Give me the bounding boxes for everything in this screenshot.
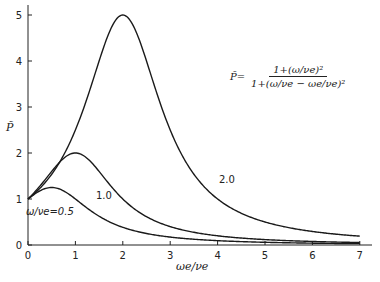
curve-2.0 xyxy=(28,15,360,236)
curve-label-1.0: 1.0 xyxy=(96,190,112,201)
y-tick-label: 3 xyxy=(16,102,22,113)
chart: 01234567012345 2.0 1.0 ω/νe=0.5 ωe/νe P̃ xyxy=(0,0,380,282)
y-axis-title: P̃ xyxy=(5,121,14,134)
x-tick-label: 2 xyxy=(120,250,126,261)
curve-label-0.5: ω/νe=0.5 xyxy=(26,206,74,217)
x-tick-label: 6 xyxy=(309,250,315,261)
formula-fraction: 1+(ω/νe)² 1+(ω/νe − ωe/νe)² xyxy=(247,64,349,89)
y-tick-label: 0 xyxy=(16,240,22,251)
x-tick-label: 3 xyxy=(167,250,173,261)
curves xyxy=(28,15,360,244)
x-tick-label: 4 xyxy=(214,250,220,261)
formula: P̃= 1+(ω/νe)² 1+(ω/νe − ωe/νe)² xyxy=(230,64,349,89)
formula-denominator: 1+(ω/νe − ωe/νe)² xyxy=(247,77,349,89)
x-tick-label: 5 xyxy=(262,250,268,261)
x-axis-title: ωe/νe xyxy=(176,260,209,273)
x-tick-label: 7 xyxy=(357,250,363,261)
x-tick-label: 1 xyxy=(72,250,78,261)
curve-label-2.0: 2.0 xyxy=(219,174,235,185)
y-tick-label: 2 xyxy=(16,148,22,159)
curve-e0.5 xyxy=(28,188,360,244)
curve-1.0 xyxy=(28,153,360,243)
x-tick-label: 0 xyxy=(25,250,31,261)
y-tick-label: 1 xyxy=(16,194,22,205)
axes: 01234567012345 xyxy=(16,5,372,261)
formula-lhs: P̃= xyxy=(230,71,245,82)
formula-numerator: 1+(ω/νe)² xyxy=(269,64,327,77)
y-tick-label: 4 xyxy=(16,56,22,67)
y-tick-label: 5 xyxy=(16,10,22,21)
